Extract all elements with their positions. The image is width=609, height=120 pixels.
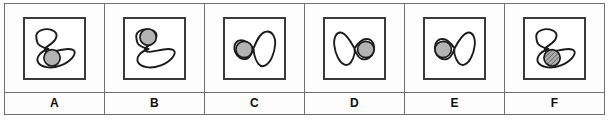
option-cell-c[interactable]: [205, 4, 305, 92]
figures-row: [5, 4, 604, 92]
figure-frame-a: [23, 17, 86, 80]
labels-row: A B C D E F: [5, 92, 604, 114]
figure-d: [325, 19, 384, 78]
gray-circle-a: [44, 50, 60, 66]
option-label-a[interactable]: A: [5, 93, 105, 114]
option-label-b[interactable]: B: [105, 93, 205, 114]
figure-e: [425, 19, 484, 78]
option-label-c[interactable]: C: [205, 93, 305, 114]
option-label-d[interactable]: D: [305, 93, 405, 114]
options-table: A B C D E F: [4, 3, 605, 115]
option-cell-e[interactable]: [405, 4, 505, 92]
answer-option-strip: A B C D E F: [0, 0, 609, 120]
figure-frame-c: [223, 17, 286, 80]
option-cell-b[interactable]: [105, 4, 205, 92]
gray-circle-c: [236, 41, 252, 57]
figure-frame-e: [423, 17, 486, 80]
hatched-circle-f: [544, 50, 560, 66]
figure-a: [25, 19, 84, 78]
option-label-e[interactable]: E: [405, 93, 505, 114]
figure-frame-f: [523, 17, 586, 80]
option-cell-a[interactable]: [5, 4, 105, 92]
option-cell-f[interactable]: [505, 4, 604, 92]
gray-circle-d: [358, 41, 374, 57]
gray-circle-e: [435, 41, 451, 57]
figure-frame-d: [323, 17, 386, 80]
gray-circle-b: [140, 29, 156, 45]
figure-frame-b: [123, 17, 186, 80]
figure-b: [125, 19, 184, 78]
option-cell-d[interactable]: [305, 4, 405, 92]
figure-f: [525, 19, 584, 78]
option-label-f[interactable]: F: [505, 93, 604, 114]
figure-c: [225, 19, 284, 78]
